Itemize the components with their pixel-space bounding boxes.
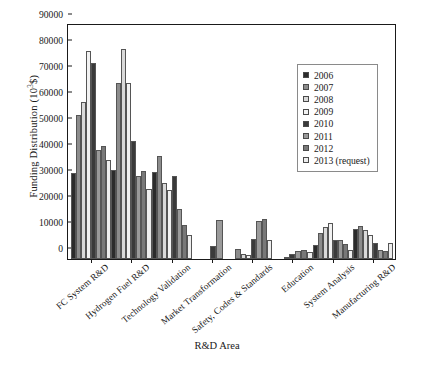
y-axis-tick-label: 0 — [58, 243, 68, 254]
legend-label: 2006 — [314, 70, 333, 81]
y-axis-tick-label: 10000 — [39, 217, 68, 228]
legend-label: 2007 — [314, 82, 333, 93]
y-axis-tick-label: 20000 — [39, 191, 68, 202]
x-axis-category-label: Technology Validation — [120, 262, 192, 325]
bar-group — [152, 25, 192, 259]
legend-item[interactable]: 2010 — [303, 118, 370, 130]
legend-item[interactable]: 2008 — [303, 93, 370, 105]
legend-label: 2011 — [314, 131, 333, 142]
legend-label: 2009 — [314, 106, 333, 117]
x-axis-category-label: Safety, Codes & Standards — [190, 262, 275, 335]
bar-group — [71, 25, 111, 259]
bar[interactable] — [388, 243, 393, 259]
y-axis-tick-label: 50000 — [39, 113, 68, 124]
y-axis-label: Funding Distribution (103$) — [27, 41, 40, 231]
y-axis-tick-label: 80000 — [39, 35, 68, 46]
y-axis-label-main: Funding Distribution (10 — [28, 88, 39, 198]
legend-swatch — [303, 157, 309, 163]
legend-swatch — [303, 121, 309, 127]
y-axis-tick-label: 60000 — [39, 87, 68, 98]
bar-group — [232, 25, 272, 259]
y-axis-tick-label: 30000 — [39, 165, 68, 176]
legend-label: 2013 (request) — [314, 155, 370, 166]
legend-item[interactable]: 2007 — [303, 81, 370, 93]
legend-item[interactable]: 2012 — [303, 142, 370, 154]
x-axis-category-labels: FC System R&DHydrogen Fuel R&DTechnology… — [67, 262, 396, 334]
legend-label: 2010 — [314, 118, 333, 129]
y-axis-tick-label: 70000 — [39, 61, 68, 72]
bar-group — [111, 25, 151, 259]
legend-item[interactable]: 2011 — [303, 130, 370, 142]
y-axis-tick-label: 90000 — [39, 9, 68, 20]
chart-figure: Funding Distribution (103$) 010000200003… — [0, 0, 434, 379]
legend-label: 2012 — [314, 143, 333, 154]
x-axis-category-label: Education — [280, 262, 316, 294]
legend-swatch — [303, 72, 309, 78]
legend-item[interactable]: 2013 (request) — [303, 154, 370, 166]
y-axis-label-exponent: 3 — [27, 84, 35, 88]
bar[interactable] — [216, 220, 223, 259]
y-axis-tick-label: 40000 — [39, 139, 68, 150]
legend-swatch — [303, 145, 309, 151]
y-axis-label-tail: $) — [28, 75, 39, 84]
legend-item[interactable]: 2006 — [303, 69, 370, 81]
x-axis-label: R&D Area — [0, 340, 434, 351]
legend-item[interactable]: 2009 — [303, 106, 370, 118]
x-axis-category-label: Market Transformation — [159, 262, 233, 327]
legend: 20062007200820092010201120122013 (reques… — [297, 64, 378, 172]
legend-swatch — [303, 109, 309, 115]
bar-group — [192, 25, 232, 259]
y-axis-tick-mark — [68, 14, 72, 15]
legend-label: 2008 — [314, 94, 333, 105]
legend-swatch — [303, 96, 309, 102]
legend-swatch — [303, 133, 309, 139]
legend-swatch — [303, 84, 309, 90]
